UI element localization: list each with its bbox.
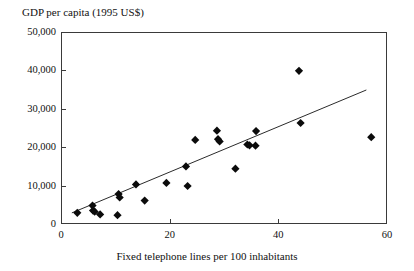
y-tick-label: 40,000 bbox=[2, 64, 56, 75]
x-tick-mark bbox=[170, 219, 171, 224]
x-tick-mark bbox=[278, 219, 279, 224]
x-tick-label: 0 bbox=[41, 229, 81, 240]
plot-area bbox=[61, 32, 387, 224]
y-tick-mark bbox=[61, 186, 66, 187]
x-tick-label: 40 bbox=[258, 229, 298, 240]
y-tick-label: 10,000 bbox=[2, 180, 56, 191]
y-tick-label: 0 bbox=[2, 218, 56, 229]
y-tick-label: 20,000 bbox=[2, 141, 56, 152]
y-tick-mark bbox=[61, 70, 66, 71]
y-tick-label: 30,000 bbox=[2, 103, 56, 114]
y-tick-mark bbox=[61, 32, 66, 33]
y-tick-label: 50,000 bbox=[2, 26, 56, 37]
x-tick-label: 60 bbox=[367, 229, 407, 240]
x-axis-label: Fixed telephone lines per 100 inhabitant… bbox=[0, 250, 414, 263]
chart-title: GDP per capita (1995 US$) bbox=[22, 6, 144, 19]
y-tick-mark bbox=[61, 109, 66, 110]
chart-figure: GDP per capita (1995 US$) 010,00020,0003… bbox=[0, 0, 414, 271]
y-tick-mark bbox=[61, 147, 66, 148]
x-tick-label: 20 bbox=[150, 229, 190, 240]
